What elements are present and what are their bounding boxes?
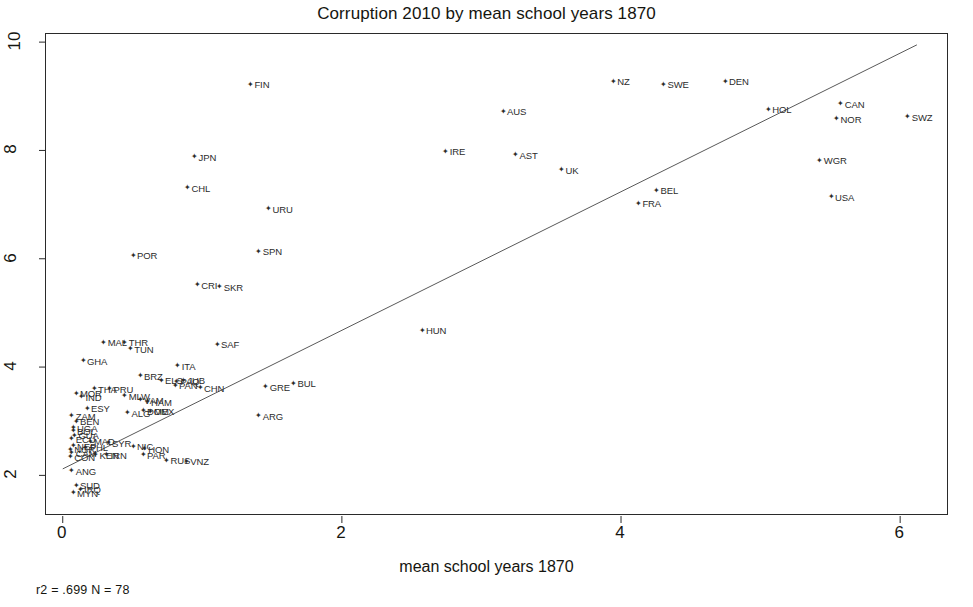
y-tick-label: 4 <box>1 361 21 370</box>
y-tick-label: 2 <box>1 470 21 479</box>
x-tick-label: 2 <box>336 523 345 543</box>
plot-area: ✦FIN✦NZ✦SWE✦DEN✦AUS✦HOL✦CAN✦NOR✦SWZ✦IRE✦… <box>45 33 948 515</box>
chart-title: Corruption 2010 by mean school years 187… <box>0 4 973 24</box>
y-tick-label: 8 <box>1 145 21 154</box>
y-tick-label: 10 <box>5 32 25 51</box>
chart-figure: Corruption 2010 by mean school years 187… <box>0 0 973 607</box>
y-tick-label: 6 <box>1 253 21 262</box>
chart-annotation: r2 = .699 N = 78 <box>36 583 130 597</box>
x-tick-label: 4 <box>615 523 624 543</box>
regression-line <box>63 45 917 469</box>
x-tick-label: 0 <box>57 523 66 543</box>
x-tick-label: 6 <box>894 523 903 543</box>
plot-canvas <box>46 34 949 516</box>
x-axis-label: mean school years 1870 <box>0 558 973 576</box>
